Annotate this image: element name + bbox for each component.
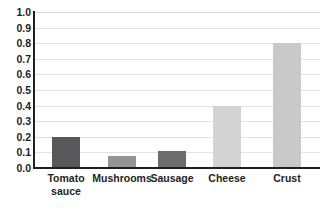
gridline xyxy=(35,12,320,13)
y-tick-label: 0.0 xyxy=(3,163,31,174)
bar-cheese xyxy=(213,106,241,168)
y-tick-label: 0.6 xyxy=(3,69,31,80)
plot-area xyxy=(35,12,320,168)
y-axis-line xyxy=(33,11,35,169)
y-tick-label: 0.3 xyxy=(3,116,31,127)
y-tick-label: 0.4 xyxy=(3,101,31,112)
y-tick-label: 0.2 xyxy=(3,132,31,143)
y-axis-tick-labels: 1.0 0.9 0.8 0.7 0.6 0.5 0.4 0.3 0.2 0.1 … xyxy=(0,0,31,210)
y-tick-label: 1.0 xyxy=(3,7,31,18)
x-axis-tick-labels: Tomato sauce Mushrooms Sausage Cheese Cr… xyxy=(35,172,320,210)
bar-sausage xyxy=(158,151,186,168)
x-axis-line xyxy=(33,167,320,169)
bar-crust xyxy=(273,43,301,168)
bar-tomato-sauce xyxy=(52,137,80,168)
y-tick-label: 0.5 xyxy=(3,85,31,96)
y-tick-label: 0.9 xyxy=(3,23,31,34)
gridline xyxy=(35,28,320,29)
y-tick-label: 0.1 xyxy=(3,147,31,158)
y-tick-label: 0.8 xyxy=(3,38,31,49)
bar-chart: 1.0 0.9 0.8 0.7 0.6 0.5 0.4 0.3 0.2 0.1 … xyxy=(0,0,320,210)
x-tick-label-crust: Crust xyxy=(252,172,320,185)
y-tick-label: 0.7 xyxy=(3,54,31,65)
